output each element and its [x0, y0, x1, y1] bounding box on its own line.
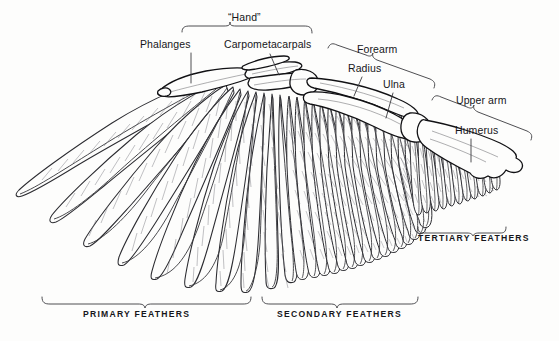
bracket-hand [182, 22, 312, 33]
bone-phalanx-tip [158, 88, 171, 96]
primary-feather-group [16, 78, 297, 293]
label-hand-region: “Hand” [228, 12, 261, 23]
label-upper-arm-region: Upper arm [456, 95, 507, 106]
label-secondary-feathers: SECONDARY FEATHERS [277, 310, 402, 319]
label-tertiary-feathers: TERTIARY FEATHERS [418, 234, 530, 243]
label-humerus: Humerus [455, 125, 498, 136]
label-carpometacarpals: Carpometacarpals [224, 39, 311, 50]
label-primary-feathers: PRIMARY FEATHERS [83, 310, 190, 319]
label-ulna: Ulna [383, 79, 405, 90]
label-radius: Radius [348, 63, 381, 74]
label-forearm-region: Forearm [357, 44, 397, 55]
wing-illustration [0, 0, 559, 341]
bracket-secondary-feathers [262, 297, 418, 308]
wing-anatomy-figure: Phalanges Carpometacarpals Radius Ulna H… [0, 0, 559, 341]
feather-primary-9 [265, 94, 278, 289]
bracket-primary-feathers [42, 297, 251, 308]
label-phalanges: Phalanges [140, 39, 191, 50]
